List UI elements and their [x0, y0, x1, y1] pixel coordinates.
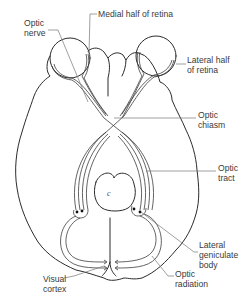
leader-optic-nerve: [48, 30, 88, 102]
label-lateral-geniculate-body: Lateral geniculate body: [199, 240, 238, 270]
left-lgb-dot-1: [76, 211, 79, 214]
midbrain: [94, 173, 135, 211]
occipital-fissure: [110, 218, 116, 276]
label-optic-radiation: Optic radiation: [175, 269, 208, 289]
brain-outline: [16, 48, 199, 280]
left-optic-radiation: [66, 218, 106, 262]
right-lgb-dot-2: [139, 211, 142, 214]
right-optic-radiation: [116, 216, 156, 262]
left-lgb-dot-2: [81, 210, 84, 213]
frontal-fissure-right: [122, 60, 126, 76]
midbrain-letter: c: [107, 189, 111, 198]
frontal-fissure: [108, 58, 110, 96]
label-optic-nerve: Optic nerve: [24, 18, 46, 38]
label-medial-half-retina: Medial half of retina: [98, 9, 173, 19]
label-optic-tract: Optic tract: [218, 163, 238, 183]
label-lateral-half-retina: Lateral half of retina: [187, 55, 230, 75]
label-visual-cortex: Visual cortex: [43, 274, 66, 294]
label-optic-chiasm: Optic chiasm: [198, 110, 225, 130]
right-lgb-dot-1: [133, 208, 136, 211]
